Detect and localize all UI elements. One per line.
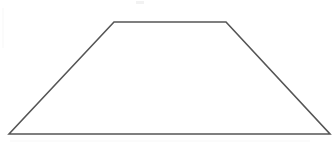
scan-streak-artifact	[2, 8, 4, 48]
top-center-speck-artifact	[136, 1, 144, 4]
figure-canvas	[0, 0, 333, 159]
trapezoid-diagram	[0, 0, 333, 159]
trapezoid-shape	[9, 22, 330, 134]
bottom-streak-artifact	[10, 140, 310, 142]
